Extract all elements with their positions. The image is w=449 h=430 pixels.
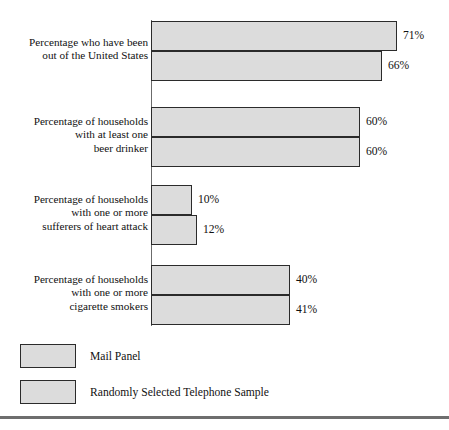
plot-area: Percentage who have been out of the Unit… [0,0,449,330]
bar-mail-panel [151,21,397,51]
legend-label: Mail Panel [90,350,141,363]
bar-row-mail-panel: 10% [151,185,192,215]
bar-row-mail-panel: 40% [151,265,290,295]
bar-value-label: 41% [296,304,317,316]
bar-chart-figure: Percentage who have been out of the Unit… [0,0,449,430]
bar-value-label: 60% [366,116,387,128]
bar-telephone-sample [151,137,360,167]
bar-row-telephone-sample: 66% [151,51,382,81]
bar-mail-panel [151,107,360,137]
category-label: Percentage of households with one or mor… [8,193,148,233]
bar-telephone-sample [151,215,197,245]
bar-telephone-sample [151,295,290,325]
bar-value-label: 12% [203,224,224,236]
bar-mail-panel [151,185,192,215]
bar-row-telephone-sample: 60% [151,137,360,167]
bar-value-label: 71% [403,30,424,42]
bar-value-label: 66% [388,60,409,72]
bar-value-label: 10% [198,194,219,206]
legend-swatch [20,344,76,368]
chart-legend: Mail Panel Randomly Selected Telephone S… [0,340,449,412]
category-label: Percentage of households with one or mor… [8,273,148,313]
bar-row-mail-panel: 60% [151,107,360,137]
bar-value-label: 40% [296,274,317,286]
bar-value-label: 60% [366,146,387,158]
bottom-divider-rule [0,416,449,419]
legend-label: Randomly Selected Telephone Sample [90,386,269,399]
bar-row-telephone-sample: 41% [151,295,290,325]
bar-row-mail-panel: 71% [151,21,397,51]
category-label: Percentage of households with at least o… [8,115,148,155]
bar-mail-panel [151,265,290,295]
legend-swatch [20,380,76,404]
bar-row-telephone-sample: 12% [151,215,197,245]
bar-telephone-sample [151,51,382,81]
category-label: Percentage who have been out of the Unit… [8,36,148,63]
